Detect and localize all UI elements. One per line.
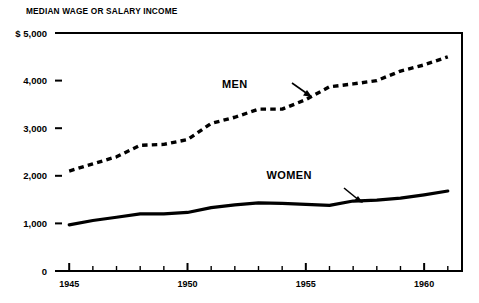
- y-axis-tick-labels: 01,0002,0003,0004,000$ 5,000: [15, 28, 47, 277]
- chart-container: MEDIAN WAGE OR SALARY INCOME 01,0002,000…: [0, 0, 479, 303]
- y-tick-label: 3,000: [23, 123, 47, 134]
- x-tick-label: 1960: [414, 279, 434, 289]
- x-tick-label: 1950: [177, 279, 197, 289]
- x-axis-tick-labels: 1945195019551960: [59, 279, 434, 289]
- y-tick-label: 1,000: [23, 218, 47, 229]
- series-layer: [69, 57, 448, 225]
- x-tick-label: 1945: [59, 279, 79, 289]
- plot-frame: [55, 33, 462, 271]
- men-leader-line: [292, 83, 312, 97]
- series-annotations: MENWOMEN: [222, 78, 312, 181]
- y-axis-ticks: [55, 81, 62, 224]
- annotation-women: WOMEN: [267, 169, 312, 181]
- series-line-men: [69, 57, 448, 171]
- series-line-women: [69, 191, 448, 225]
- x-tick-label: 1955: [296, 279, 316, 289]
- y-tick-label: 2,000: [23, 170, 47, 181]
- axis-frame-path: [55, 33, 462, 271]
- annotation-men: MEN: [222, 78, 248, 90]
- y-tick-label: 0: [42, 266, 47, 277]
- x-axis-ticks: [69, 263, 448, 271]
- line-chart: 01,0002,0003,0004,000$ 5,000 19451950195…: [0, 0, 479, 303]
- y-tick-label: $ 5,000: [15, 28, 47, 39]
- y-tick-label: 4,000: [23, 75, 47, 86]
